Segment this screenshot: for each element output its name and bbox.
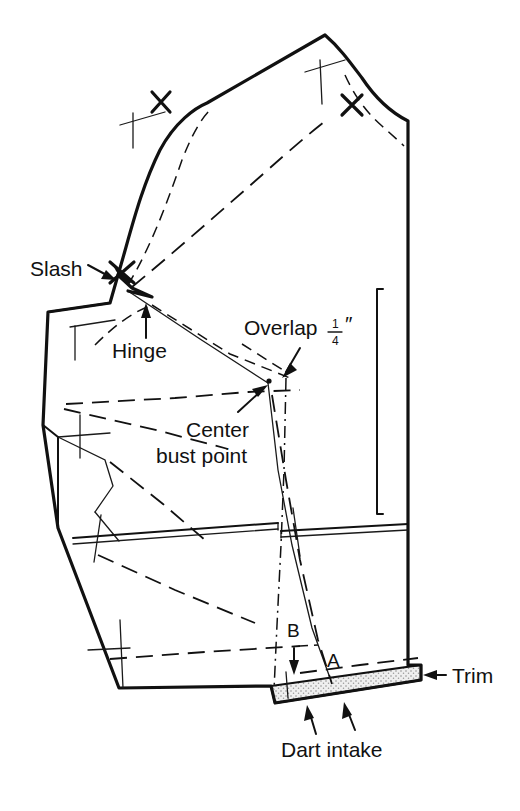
overlap-unit: ″: [345, 312, 353, 335]
center-bust-point-label-line2: bust point: [156, 444, 247, 467]
pattern-diagram-root: Slash Hinge Overlap 1 4 ″ Center bust po…: [0, 0, 520, 811]
overlap-fraction-denominator: 4: [332, 334, 339, 348]
trim-label: Trim: [452, 664, 493, 687]
hinge-label: Hinge: [112, 339, 167, 362]
overlap-label: Overlap: [244, 316, 318, 339]
annotation-point-a: A: [327, 650, 340, 671]
point-a-label: A: [327, 650, 340, 671]
overlap-fraction-numerator: 1: [332, 317, 339, 331]
bust-point-dot: [266, 378, 271, 383]
diagram-background: [0, 0, 520, 811]
slash-label: Slash: [30, 257, 83, 280]
center-bust-point-label-line1: Center: [186, 418, 249, 441]
point-b-label: B: [287, 620, 300, 641]
pattern-diagram-svg: Slash Hinge Overlap 1 4 ″ Center bust po…: [0, 0, 520, 811]
dart-intake-label: Dart intake: [281, 738, 383, 761]
